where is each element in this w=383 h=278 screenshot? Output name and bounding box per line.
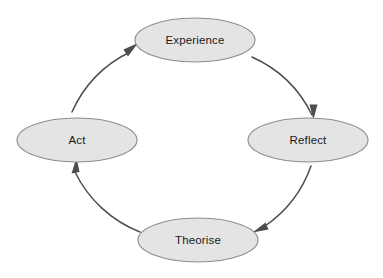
node-act-label: Act (68, 134, 86, 146)
arc-experience-to-reflect (252, 57, 312, 115)
node-theorise-label: Theorise (175, 234, 221, 246)
node-reflect[interactable]: Reflect (248, 118, 368, 162)
node-experience[interactable]: Experience (135, 18, 255, 62)
arc-theorise-to-act (75, 172, 140, 232)
cycle-canvas: Experience Reflect Theorise Act (0, 0, 383, 278)
learning-cycle-diagram: Experience Reflect Theorise Act (0, 0, 383, 278)
arc-reflect-to-theorise (265, 166, 311, 226)
arc-act-to-experience (72, 52, 130, 112)
node-theorise[interactable]: Theorise (138, 218, 258, 262)
arrowhead-into-theorise (253, 223, 269, 233)
node-act[interactable]: Act (17, 118, 137, 162)
node-experience-label: Experience (165, 34, 224, 46)
node-reflect-label: Reflect (290, 134, 327, 146)
